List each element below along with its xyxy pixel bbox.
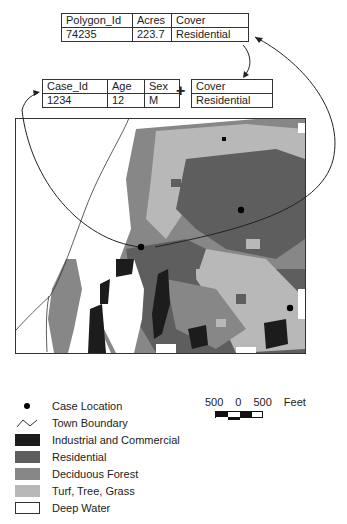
cell-case-id: 1234 (43, 94, 108, 108)
arrow-head-icon (33, 90, 40, 96)
cell-cover: Residential (172, 28, 249, 42)
arrow-head-icon (255, 37, 263, 43)
header-age: Age (108, 80, 145, 94)
join-plus-icon: + (176, 83, 185, 99)
land-cover-map (15, 118, 306, 354)
swatch-deciduous-forest (15, 468, 40, 480)
link-arc (22, 93, 38, 110)
table-header-row: Polygon_Id Acres Cover (62, 14, 249, 28)
scale-bar-graphic (215, 411, 263, 418)
dot-icon (14, 400, 40, 412)
scale-label: 0 (235, 396, 241, 408)
map-legend: Case Location Town Boundary Industrial a… (14, 397, 180, 516)
cell-cover: Residential (192, 94, 273, 108)
join-arrow (243, 45, 250, 76)
legend-item-deep-water: Deep Water (14, 499, 180, 516)
table-row: 1234 12 M (43, 94, 180, 108)
header-acres: Acres (133, 14, 172, 28)
header-cover: Cover (172, 14, 249, 28)
table-row: 74235 223.7 Residential (62, 28, 249, 42)
legend-item-turf: Turf, Tree, Grass (14, 482, 180, 499)
scale-label: 500 (205, 396, 223, 408)
joined-cover-table: Cover Residential (191, 79, 273, 108)
header-polygon-id: Polygon_Id (62, 14, 133, 28)
case-attribute-table: Case_Id Age Sex 1234 12 M (42, 79, 180, 108)
swatch-deep-water (15, 502, 40, 514)
legend-item-deciduous-forest: Deciduous Forest (14, 465, 180, 482)
scale-unit: Feet (284, 396, 306, 408)
scale-bar: 500 0 500 Feet (205, 396, 306, 418)
cell-polygon-id: 74235 (62, 28, 133, 42)
swatch-residential (15, 451, 40, 463)
table-header-row: Case_Id Age Sex (43, 80, 180, 94)
legend-item-town-boundary: Town Boundary (14, 414, 180, 431)
header-case-id: Case_Id (43, 80, 108, 94)
cell-acres: 223.7 (133, 28, 172, 42)
cell-sex: M (145, 94, 180, 108)
legend-item-residential: Residential (14, 448, 180, 465)
legend-item-case-location: Case Location (14, 397, 180, 414)
header-sex: Sex (145, 80, 180, 94)
land-cover-raster (16, 119, 305, 353)
header-cover: Cover (192, 80, 273, 94)
cell-age: 12 (108, 94, 145, 108)
swatch-industrial (15, 434, 40, 446)
arrow-head-icon (243, 71, 249, 78)
zigzag-line-icon (14, 417, 40, 429)
scale-label: 500 (253, 396, 271, 408)
swatch-turf (15, 485, 40, 497)
legend-item-industrial: Industrial and Commercial (14, 431, 180, 448)
polygon-attribute-table: Polygon_Id Acres Cover 74235 223.7 Resid… (61, 13, 249, 42)
